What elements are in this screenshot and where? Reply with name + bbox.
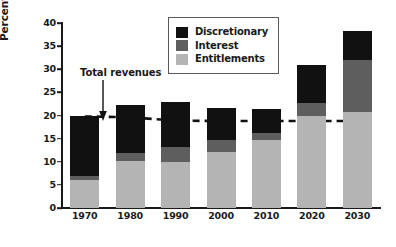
chart-container: Percentage of GDP 0510152025303540197019… (0, 0, 396, 247)
bar-segment-entitlements (252, 140, 281, 208)
bar-2010 (252, 109, 281, 208)
legend: Discretionary Interest Entitlements (168, 17, 279, 74)
legend-swatch-interest (176, 40, 188, 51)
bar-1980 (116, 105, 145, 208)
y-axis-tick-mark (57, 92, 62, 94)
bar-1970 (70, 116, 99, 209)
legend-item-interest: Interest (176, 40, 268, 51)
y-axis-tick-mark (57, 161, 62, 163)
bar-segment-discretionary (343, 31, 372, 60)
bar-segment-discretionary (252, 109, 281, 133)
bar-segment-interest (116, 153, 145, 161)
legend-label-interest: Interest (195, 41, 238, 51)
bar-segment-entitlements (116, 161, 145, 208)
bar-segment-discretionary (207, 108, 236, 140)
bar-segment-interest (252, 133, 281, 140)
bar-segment-entitlements (70, 180, 99, 208)
x-axis-tick-label: 2030 (327, 211, 387, 221)
y-axis-tick-mark (57, 184, 62, 186)
bar-segment-entitlements (343, 112, 372, 208)
y-axis-tick-mark (57, 115, 62, 117)
bar-segment-discretionary (70, 116, 99, 176)
y-axis-tick-mark (57, 207, 62, 209)
y-axis-tick-mark (57, 45, 62, 47)
legend-label-discretionary: Discretionary (195, 27, 268, 37)
bar-segment-entitlements (207, 152, 236, 208)
legend-label-entitlements: Entitlements (195, 54, 265, 64)
y-axis-title: Percentage of GDP (0, 0, 10, 52)
bar-segment-interest (343, 60, 372, 112)
bar-2030 (343, 31, 372, 208)
annotation-total-revenues: Total revenues (80, 68, 161, 78)
bar-2000 (207, 108, 236, 208)
bar-2020 (297, 65, 326, 208)
bar-segment-interest (161, 147, 190, 162)
legend-swatch-discretionary (176, 27, 188, 38)
bar-segment-discretionary (161, 102, 190, 147)
bar-segment-interest (297, 103, 326, 115)
bar-segment-interest (70, 176, 99, 181)
bar-1990 (161, 102, 190, 208)
annotation-arrow-icon (96, 80, 110, 122)
y-axis-tick-mark (57, 138, 62, 140)
legend-swatch-entitlements (176, 54, 188, 65)
bar-segment-entitlements (297, 116, 326, 208)
bar-segment-discretionary (297, 65, 326, 104)
legend-item-entitlements: Entitlements (176, 54, 268, 65)
bar-segment-interest (207, 140, 236, 152)
y-axis-tick-mark (57, 68, 62, 70)
legend-item-discretionary: Discretionary (176, 27, 268, 38)
y-axis-tick-mark (57, 22, 62, 24)
bar-segment-entitlements (161, 162, 190, 208)
bar-segment-discretionary (116, 105, 145, 153)
